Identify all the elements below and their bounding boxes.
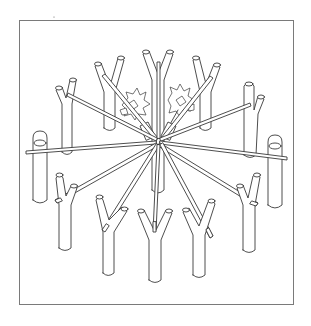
stake-bottom-left: [96, 195, 128, 276]
pole-end-bottom-right: [206, 228, 213, 238]
stray-mark: [53, 16, 54, 17]
stake-right: [268, 135, 282, 208]
stake-lower-right: [237, 173, 261, 253]
stake-circle-illustration: [0, 0, 311, 326]
stake-upper-right: [244, 82, 265, 158]
stake-left: [33, 131, 47, 203]
stake-upper-left: [56, 78, 77, 155]
stake-lower-left: [56, 173, 78, 251]
pole-end-bottom-center: [153, 222, 156, 232]
